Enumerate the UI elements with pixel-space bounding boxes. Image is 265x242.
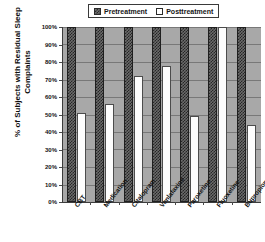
chart-legend: Pretreatment Posttreatment [88,4,219,18]
bar-posttreatment [105,104,114,202]
bar-pretreatment [152,27,161,202]
bar-group [204,27,232,202]
residual-sleep-complaints-chart: Pretreatment Posttreatment % of Subjects… [0,0,265,242]
bar-pretreatment [208,27,217,202]
bar-pretreatment [95,27,104,202]
y-axis-tick-label: 60% [45,94,57,100]
y-axis-tick-label: 70% [45,77,57,83]
bar-posttreatment [162,66,171,203]
legend-item-posttreatment: Posttreatment [156,8,213,15]
plot-area [62,27,261,203]
legend-swatch-posttreatment [156,8,163,15]
bar-group [120,27,148,202]
legend-label-pretreatment: Pretreatment [104,8,147,15]
y-axis-tick-label: 80% [45,59,57,65]
legend-label-posttreatment: Posttreatment [166,8,213,15]
y-axis-tick-labels: 100%90%80%70%60%50%40%30%20%10%0% [32,22,60,202]
y-axis-tick-label: 50% [45,112,57,118]
bar-pretreatment [67,27,76,202]
bar-posttreatment [218,27,227,202]
bar-group [63,27,91,202]
legend-swatch-pretreatment [94,8,101,15]
bar-posttreatment [134,76,143,202]
y-axis-tick-label: 0% [48,199,57,205]
y-axis-tick-label: 90% [45,42,57,48]
bar-pretreatment [237,27,246,202]
y-axis-tick-label: 10% [45,182,57,188]
y-axis-tick-label: 40% [45,129,57,135]
bar-group [148,27,176,202]
bar-groups [63,27,261,202]
bar-pretreatment [124,27,133,202]
bar-group [91,27,119,202]
legend-item-pretreatment: Pretreatment [94,8,147,15]
y-axis-tick-label: 20% [45,164,57,170]
x-axis-tick-labels: CBTMedicationCitalopramVenlafaxineParoxe… [62,204,260,242]
y-axis-tick-label: 30% [45,147,57,153]
bar-group [233,27,261,202]
y-axis-tick-label: 100% [42,24,57,30]
bar-posttreatment [77,113,86,202]
